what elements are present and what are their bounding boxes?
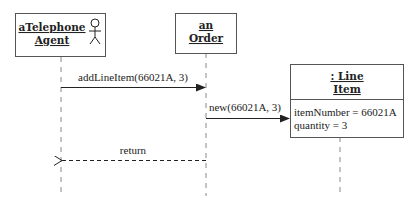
message-new: new(66021A, 3) <box>206 101 289 119</box>
message-label: addLineItem(66021A, 3) <box>78 71 188 84</box>
attribute-item-number: itemNumber = 66021A <box>294 106 397 118</box>
participant-name-line2: Order <box>189 32 224 44</box>
message-label: new(66021A, 3) <box>209 101 281 114</box>
message-return: return <box>62 144 206 161</box>
sequence-diagram: aTelephone Agent an Order : Line Item it… <box>0 0 407 209</box>
message-label: return <box>120 144 147 156</box>
attribute-quantity: quantity = 3 <box>294 119 348 131</box>
participant-name-line1: an <box>199 19 214 31</box>
participant-name-line1: : Line <box>330 70 364 82</box>
participant-name-line1: aTelephone <box>18 21 85 33</box>
participant-telephone-agent: aTelephone Agent <box>16 14 106 57</box>
message-add-line-item: addLineItem(66021A, 3) <box>61 71 205 88</box>
participant-line-item: : Line Item itemNumber = 66021A quantity… <box>291 65 404 138</box>
participant-order: an Order <box>176 14 237 54</box>
participant-name-line2: Item <box>333 83 361 95</box>
participant-name-line2: Agent <box>34 34 70 46</box>
